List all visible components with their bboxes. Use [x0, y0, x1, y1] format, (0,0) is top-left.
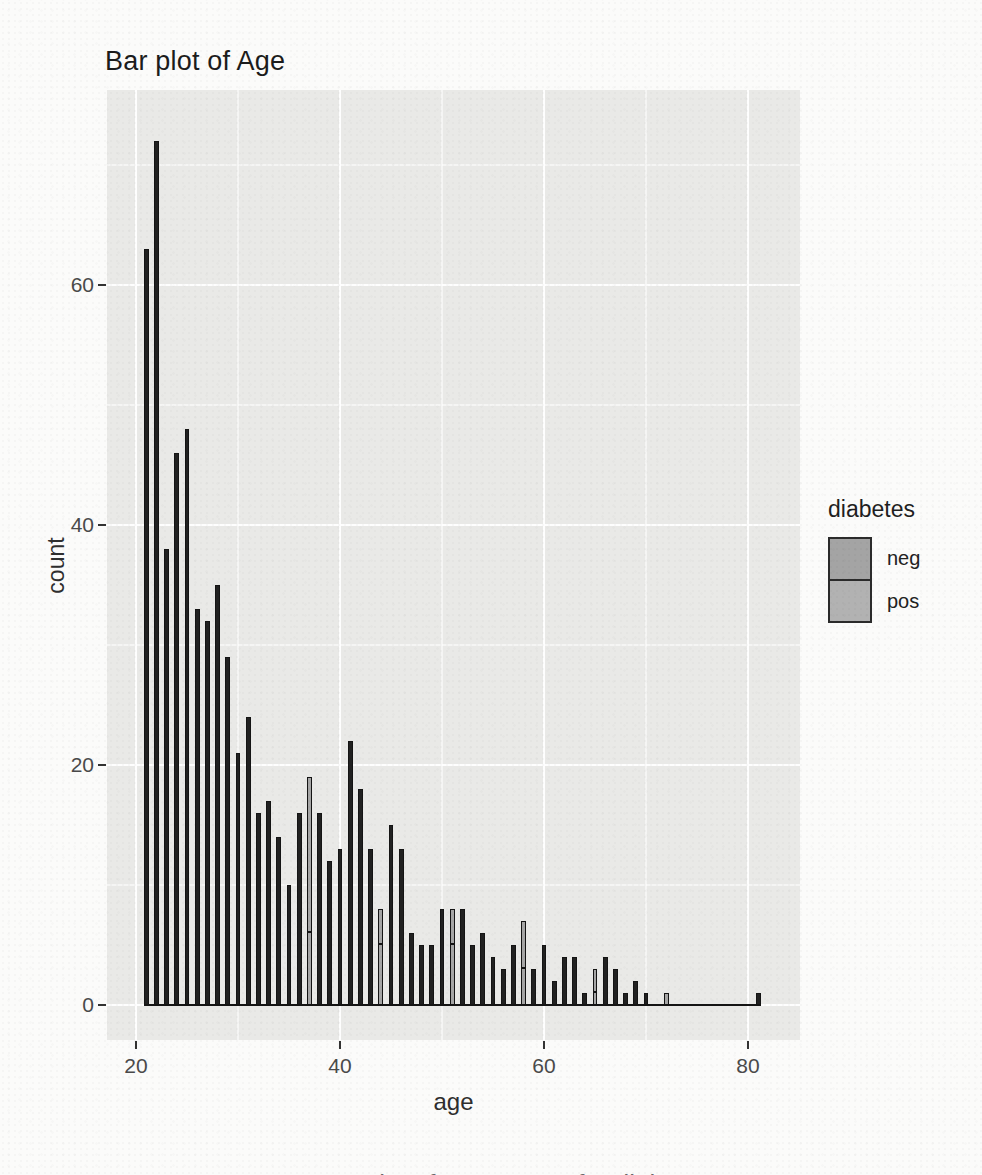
bar-age-63 — [572, 957, 577, 1005]
y-tick-label: 0 — [44, 993, 94, 1017]
bar-age-30 — [236, 753, 241, 1005]
bar-age-35 — [287, 885, 292, 1005]
bar-age-68 — [623, 993, 628, 1005]
legend-entry-pos: pos — [828, 580, 920, 623]
bar-stack-divider — [379, 943, 382, 945]
bar-age-59 — [531, 969, 536, 1005]
chart-title: Bar plot of Age — [105, 46, 285, 77]
bar-age-32 — [256, 813, 261, 1005]
bar-age-41 — [348, 741, 353, 1005]
gridline-minor — [107, 644, 800, 646]
gridline-major — [747, 90, 749, 1040]
y-tick-mark — [98, 524, 106, 526]
bar-age-48 — [419, 945, 424, 1005]
gridline-minor — [645, 90, 647, 1040]
bar-age-49 — [429, 945, 434, 1005]
bar-age-25 — [185, 429, 190, 1005]
bar-age-47 — [409, 933, 414, 1005]
bar-stack-divider — [594, 991, 597, 993]
bar-age-34 — [276, 837, 281, 1005]
bar-age-72 — [664, 993, 669, 1005]
x-tick-mark — [747, 1041, 749, 1049]
bar-age-56 — [501, 969, 506, 1005]
bar-age-53 — [470, 945, 475, 1005]
x-tick-label: 80 — [723, 1054, 773, 1078]
x-tick-mark — [135, 1041, 137, 1049]
bar-age-39 — [327, 861, 332, 1005]
y-tick-mark — [98, 284, 106, 286]
bar-age-52 — [460, 909, 465, 1005]
legend: diabetes neg pos — [828, 496, 920, 623]
bar-age-70 — [644, 993, 649, 1005]
x-tick-label: 20 — [111, 1054, 161, 1078]
gridline-minor — [441, 90, 443, 1040]
x-tick-label: 40 — [315, 1054, 365, 1078]
bar-age-44 — [378, 909, 383, 1005]
bar-stack-divider — [451, 943, 454, 945]
bar-age-22 — [154, 141, 159, 1005]
bar-age-42 — [358, 789, 363, 1005]
bar-age-81 — [756, 993, 761, 1005]
gridline-minor — [107, 404, 800, 406]
bar-age-45 — [389, 825, 394, 1005]
bar-age-65 — [593, 969, 598, 1005]
y-tick-label: 20 — [44, 753, 94, 777]
gridline-major — [107, 764, 800, 766]
bar-age-38 — [317, 813, 322, 1005]
x-tick-mark — [339, 1041, 341, 1049]
legend-swatch-pos — [828, 579, 872, 623]
bar-age-58 — [521, 921, 526, 1005]
gridline-minor — [107, 884, 800, 886]
bar-age-69 — [633, 981, 638, 1005]
bar-stack-divider — [308, 931, 311, 933]
bar-age-26 — [195, 609, 200, 1005]
x-tick-mark — [543, 1041, 545, 1049]
bar-age-60 — [542, 945, 547, 1005]
bar-age-36 — [297, 813, 302, 1005]
legend-label-pos: pos — [887, 590, 919, 613]
caption-clipped: Bar plot of age counts for diabetes — [255, 1160, 775, 1175]
bar-age-64 — [582, 993, 587, 1005]
bar-age-67 — [613, 969, 618, 1005]
legend-title: diabetes — [828, 496, 920, 523]
gridline-major — [135, 90, 137, 1040]
plot-panel — [107, 90, 800, 1040]
bar-age-37 — [307, 777, 312, 1005]
bar-age-54 — [480, 933, 485, 1005]
y-axis-label: count — [43, 506, 70, 626]
bar-age-33 — [266, 801, 271, 1005]
bar-age-21 — [144, 249, 149, 1005]
bar-age-43 — [368, 849, 373, 1005]
legend-label-neg: neg — [887, 547, 920, 570]
bar-age-50 — [440, 909, 445, 1005]
bar-age-23 — [164, 549, 169, 1005]
bar-age-51 — [450, 909, 455, 1005]
gridline-major — [107, 284, 800, 286]
bar-age-29 — [225, 657, 230, 1005]
y-tick-label: 60 — [44, 273, 94, 297]
bar-age-66 — [603, 957, 608, 1005]
gridline-minor — [107, 164, 800, 166]
bar-age-27 — [205, 621, 210, 1005]
bar-age-46 — [399, 849, 404, 1005]
gridline-major — [107, 524, 800, 526]
bar-age-28 — [215, 585, 220, 1005]
bar-age-24 — [174, 453, 179, 1005]
bar-age-40 — [338, 849, 343, 1005]
gridline-major — [543, 90, 545, 1040]
y-tick-mark — [98, 764, 106, 766]
y-tick-mark — [98, 1004, 106, 1006]
bar-age-62 — [562, 957, 567, 1005]
bar-age-61 — [552, 981, 557, 1005]
x-tick-label: 60 — [519, 1054, 569, 1078]
bar-age-57 — [511, 945, 516, 1005]
legend-swatch-neg — [828, 537, 872, 581]
bar-stack-divider — [522, 967, 525, 969]
scanned-page: Bar plot of Age 020406020406080 count ag… — [0, 0, 982, 1175]
legend-entry-neg: neg — [828, 537, 920, 580]
x-axis-label: age — [107, 1088, 800, 1116]
bar-age-31 — [246, 717, 251, 1005]
bar-age-55 — [491, 957, 496, 1005]
